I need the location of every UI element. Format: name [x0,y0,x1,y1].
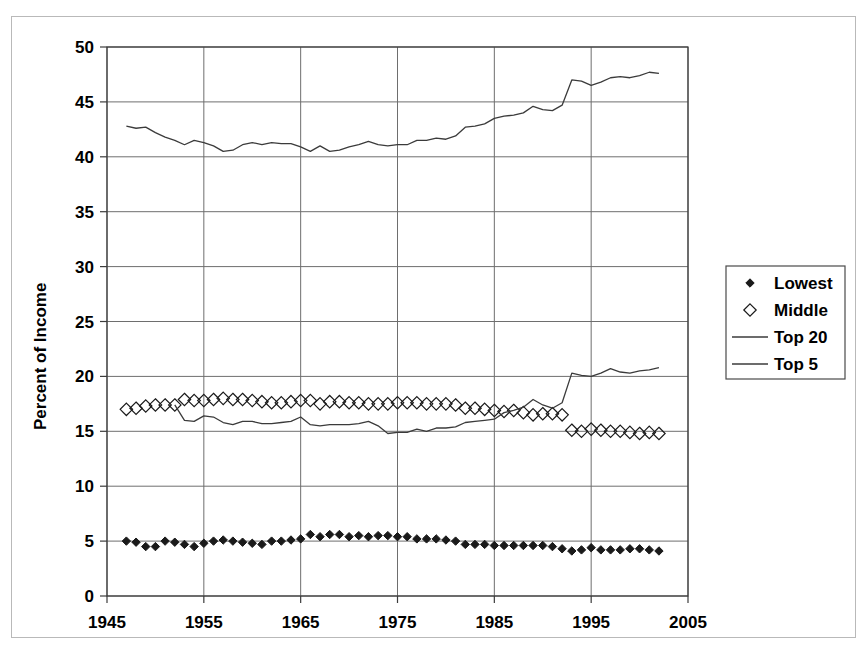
data-point-marker [635,545,643,553]
x-tick-label: 1965 [282,613,320,632]
line-chart: 05101520253035404550 1945195519651975198… [0,0,867,666]
data-point-marker [413,535,421,543]
data-point-marker [122,537,130,545]
data-point-marker [490,541,498,549]
data-point-marker [345,533,353,541]
data-point-marker [539,541,547,549]
x-tick-label: 1975 [379,613,417,632]
legend-item-label: Top 5 [774,355,818,374]
data-point-marker [324,395,336,407]
data-point-marker [248,539,256,547]
legend-item-label: Top 20 [774,328,828,347]
x-tick-label: 1955 [185,613,223,632]
data-point-marker [558,545,566,553]
data-point-marker [655,547,663,555]
data-point-marker [403,533,411,541]
data-series-layer [120,72,665,555]
data-point-marker [529,541,537,549]
y-tick-label: 15 [75,422,94,441]
series-top-20 [126,72,659,151]
data-point-marker [364,533,372,541]
data-point-marker [306,530,314,538]
data-point-marker [548,542,556,550]
y-tick-label: 0 [85,587,94,606]
x-axis-ticks [107,596,688,603]
data-point-marker [159,399,171,411]
chart-legend: LowestMiddleTop 20Top 5 [726,266,845,379]
y-axis-title: Percent of Income [31,283,50,430]
y-tick-label: 5 [85,532,94,551]
data-point-marker [451,537,459,545]
data-point-marker [587,543,595,551]
data-point-marker [238,538,246,546]
data-point-marker [645,546,653,554]
data-point-marker [510,541,518,549]
data-point-marker [229,537,237,545]
data-point-marker [355,531,363,539]
data-point-marker [568,547,576,555]
data-point-marker [372,398,384,410]
data-point-marker [267,537,275,545]
x-axis-tick-labels: 1945195519651975198519952005 [88,613,707,632]
data-point-marker [422,535,430,543]
data-point-marker [335,530,343,538]
y-axis-tick-labels: 05101520253035404550 [75,38,94,606]
data-point-marker [626,545,634,553]
chart-figure: 05101520253035404550 1945195519651975198… [0,0,867,666]
data-point-marker [296,535,304,543]
y-tick-label: 45 [75,93,94,112]
data-point-marker [500,541,508,549]
data-point-marker [326,530,334,538]
data-point-marker [606,546,614,554]
data-point-marker [161,537,169,545]
data-point-marker [432,535,440,543]
data-point-marker [384,531,392,539]
data-point-marker [616,546,624,554]
data-point-marker [577,546,585,554]
y-tick-label: 30 [75,258,94,277]
gridlines [107,47,688,596]
y-axis-ticks [100,47,107,596]
data-point-marker [401,397,413,409]
data-point-marker [190,542,198,550]
data-point-marker [200,539,208,547]
y-tick-label: 20 [75,367,94,386]
data-point-marker [597,546,605,554]
x-tick-label: 1945 [88,613,126,632]
data-point-marker [430,398,442,410]
y-tick-label: 25 [75,313,94,332]
x-tick-label: 1995 [572,613,610,632]
y-tick-label: 10 [75,477,94,496]
y-tick-label: 50 [75,38,94,57]
data-point-marker [519,541,527,549]
data-point-marker [277,537,285,545]
y-tick-label: 40 [75,148,94,167]
data-point-marker [219,536,227,544]
data-point-marker [132,538,140,546]
y-tick-label: 35 [75,203,94,222]
data-point-marker [287,536,295,544]
data-point-marker [442,536,450,544]
x-tick-label: 1985 [475,613,513,632]
data-point-marker [209,537,217,545]
data-point-marker [171,538,179,546]
series-line [126,72,659,151]
legend-item-label: Lowest [774,274,833,293]
legend-item-label: Middle [774,301,828,320]
data-point-marker [142,542,150,550]
data-point-marker [393,533,401,541]
data-point-marker [151,542,159,550]
data-point-marker [316,533,324,541]
data-point-marker [374,531,382,539]
x-tick-label: 2005 [669,613,707,632]
series-lowest [122,530,663,555]
